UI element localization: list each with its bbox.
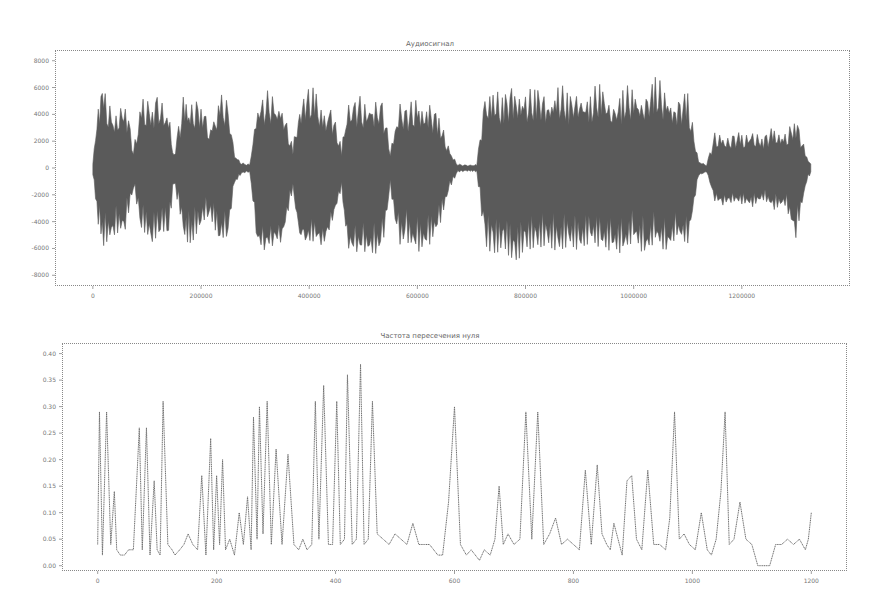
x-tick-label: 400 xyxy=(316,577,356,584)
y-tick-label: 0.15 xyxy=(26,482,56,489)
y-tick-label: 0.05 xyxy=(26,535,56,542)
x-tick-label: 0 xyxy=(78,577,118,584)
y-tick-label: 0.20 xyxy=(26,456,56,463)
zcr-plot xyxy=(0,0,874,604)
x-tick-label: 200 xyxy=(197,577,237,584)
y-tick-label: 0.30 xyxy=(26,403,56,410)
zcr-line xyxy=(98,364,812,565)
y-tick-label: 0.40 xyxy=(26,350,56,357)
x-tick-label: 1000 xyxy=(672,577,712,584)
x-tick-label: 800 xyxy=(553,577,593,584)
zcr-panel: Частота пересечения нуля 0.400.350.300.2… xyxy=(0,0,874,604)
y-tick-label: 0.35 xyxy=(26,376,56,383)
x-tick-label: 600 xyxy=(435,577,475,584)
x-tick-label: 1200 xyxy=(791,577,831,584)
y-tick-label: 0.25 xyxy=(26,429,56,436)
y-tick-label: 0.10 xyxy=(26,509,56,516)
y-tick-label: 0.00 xyxy=(26,562,56,569)
